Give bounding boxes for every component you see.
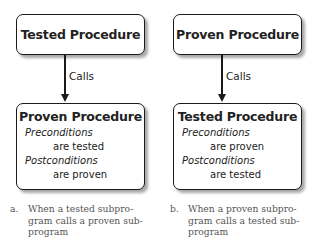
arrowhead-icon [61,94,69,102]
postconditions-value: are tested [182,168,301,182]
postconditions-label: Postconditions [182,154,301,168]
caller-box: Proven Procedure [173,14,302,55]
preconditions-label: Preconditions [182,126,301,140]
arrowhead-icon [218,94,226,102]
caption-text: When a tested subpro-gram calls a proven… [28,203,153,238]
calls-label: Calls [69,70,94,82]
caption-a: a. When a tested subpro-gram calls a pro… [10,203,160,243]
caption-letter: b. [170,203,179,215]
calls-arrow-line [221,55,223,95]
preconditions-label: Preconditions [25,126,144,140]
caller-title: Proven Procedure [176,27,299,42]
caption-b: b. When a proven subpro-gram calls a tes… [170,203,320,243]
calls-arrow-line [64,55,66,95]
preconditions-value: are proven [182,140,301,154]
calls-label: Calls [226,70,251,82]
callee-box: Tested Procedure Preconditions are prove… [173,103,302,190]
caller-box: Tested Procedure [16,14,145,55]
callee-title: Tested Procedure [174,109,301,124]
preconditions-value: are tested [25,140,144,154]
caption-letter: a. [10,203,18,215]
postconditions-label: Postconditions [25,154,144,168]
postconditions-value: are proven [25,168,144,182]
caption-text: When a proven subpro-gram calls a tested… [188,203,313,238]
caller-title: Tested Procedure [21,27,141,42]
callee-title: Proven Procedure [17,109,144,124]
callee-box: Proven Procedure Preconditions are teste… [16,103,145,190]
